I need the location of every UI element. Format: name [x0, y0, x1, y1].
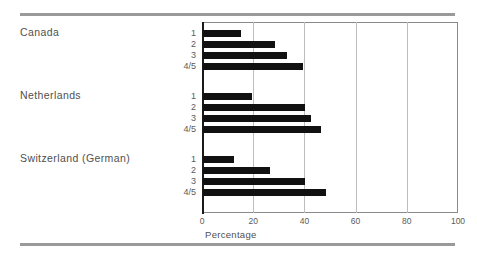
x-tick-label-0: 0	[189, 216, 215, 226]
category-label-3: 3	[168, 114, 196, 122]
bar-netherlands-4-5	[203, 126, 321, 133]
category-label-1: 1	[168, 155, 196, 163]
bar-switzerland-german-4-5	[203, 189, 326, 196]
x-axis-title: Percentage	[205, 229, 257, 240]
bar-canada-4-5	[203, 63, 303, 70]
bar-switzerland-german-1	[203, 156, 234, 163]
category-label-4-5: 4/5	[168, 62, 196, 70]
category-label-3: 3	[168, 51, 196, 59]
category-label-2: 2	[168, 166, 196, 174]
gridline-60	[356, 22, 357, 213]
bar-switzerland-german-3	[203, 178, 305, 185]
x-tick-label-60: 60	[343, 216, 369, 226]
category-label-2: 2	[168, 103, 196, 111]
category-label-1: 1	[168, 29, 196, 37]
x-tick-label-100: 100	[445, 216, 471, 226]
category-label-1: 1	[168, 92, 196, 100]
bar-netherlands-1	[203, 93, 252, 100]
category-label-3: 3	[168, 177, 196, 185]
bar-canada-3	[203, 52, 287, 59]
bar-canada-2	[203, 41, 275, 48]
group-label-netherlands: Netherlands	[20, 89, 81, 101]
x-tick-label-80: 80	[394, 216, 420, 226]
group-label-switzerland: Switzerland (German)	[20, 152, 130, 164]
x-tick-label-40: 40	[291, 216, 317, 226]
bar-switzerland-german-2	[203, 167, 270, 174]
bar-netherlands-2	[203, 104, 305, 111]
bar-canada-1	[203, 30, 241, 37]
gridline-80	[407, 22, 408, 213]
category-label-2: 2	[168, 40, 196, 48]
bar-netherlands-3	[203, 115, 311, 122]
bar-chart: Canada Netherlands Switzerland (German) …	[0, 0, 477, 257]
category-label-4-5: 4/5	[168, 188, 196, 196]
x-tick-label-20: 20	[240, 216, 266, 226]
group-label-canada: Canada	[20, 26, 59, 38]
category-label-4-5: 4/5	[168, 125, 196, 133]
